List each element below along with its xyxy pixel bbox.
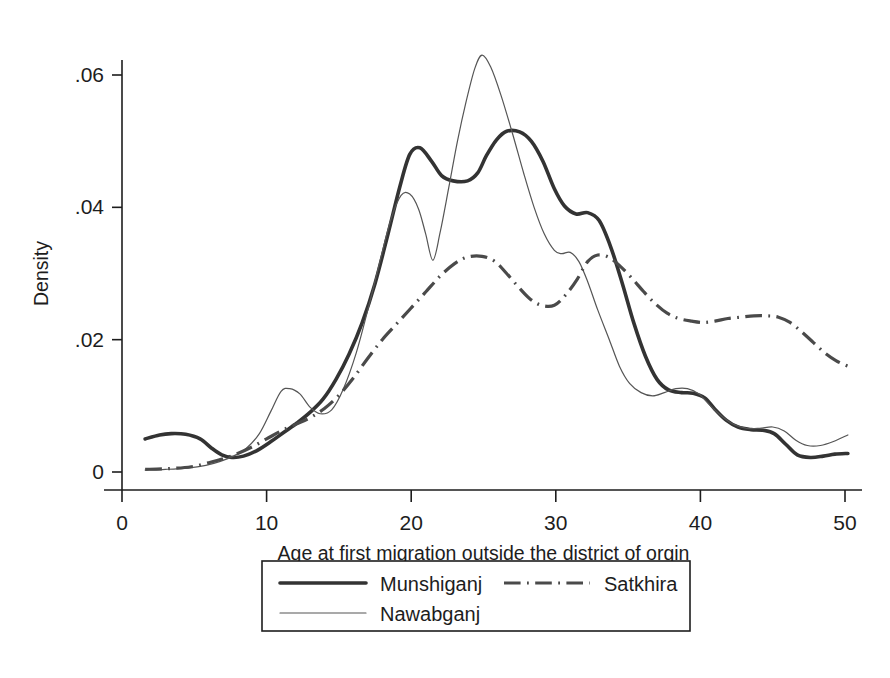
y-tick-label: 0 [92, 460, 104, 483]
series-line-nawabganj [145, 55, 848, 470]
chart-canvas: 0.02.04.0601020304050DensityAge at first… [0, 0, 890, 678]
y-tick-label: .02 [75, 328, 104, 351]
series-group [145, 55, 848, 470]
y-tick-label: .04 [75, 195, 105, 218]
density-chart-figure: 0.02.04.0601020304050DensityAge at first… [0, 0, 890, 678]
axes-group [104, 60, 862, 490]
x-tick-label: 40 [689, 511, 712, 534]
series-line-satkhira [145, 255, 848, 470]
x-tick-label: 0 [116, 511, 128, 534]
tick-labels-group: 0.02.04.0601020304050DensityAge at first… [30, 63, 857, 564]
y-tick-label: .06 [75, 63, 104, 86]
x-tick-label: 30 [544, 511, 567, 534]
legend-label-munshiganj: Munshiganj [380, 573, 482, 595]
x-tick-label: 10 [255, 511, 278, 534]
y-axis-title: Density [30, 241, 52, 306]
x-tick-label: 20 [400, 511, 423, 534]
series-line-munshiganj [145, 130, 848, 457]
chart-legend[interactable]: MunshiganjSatkhiraNawabganj [262, 561, 690, 631]
legend-label-satkhira: Satkhira [604, 573, 678, 595]
legend-label-nawabganj: Nawabganj [380, 603, 480, 625]
x-tick-label: 50 [833, 511, 856, 534]
